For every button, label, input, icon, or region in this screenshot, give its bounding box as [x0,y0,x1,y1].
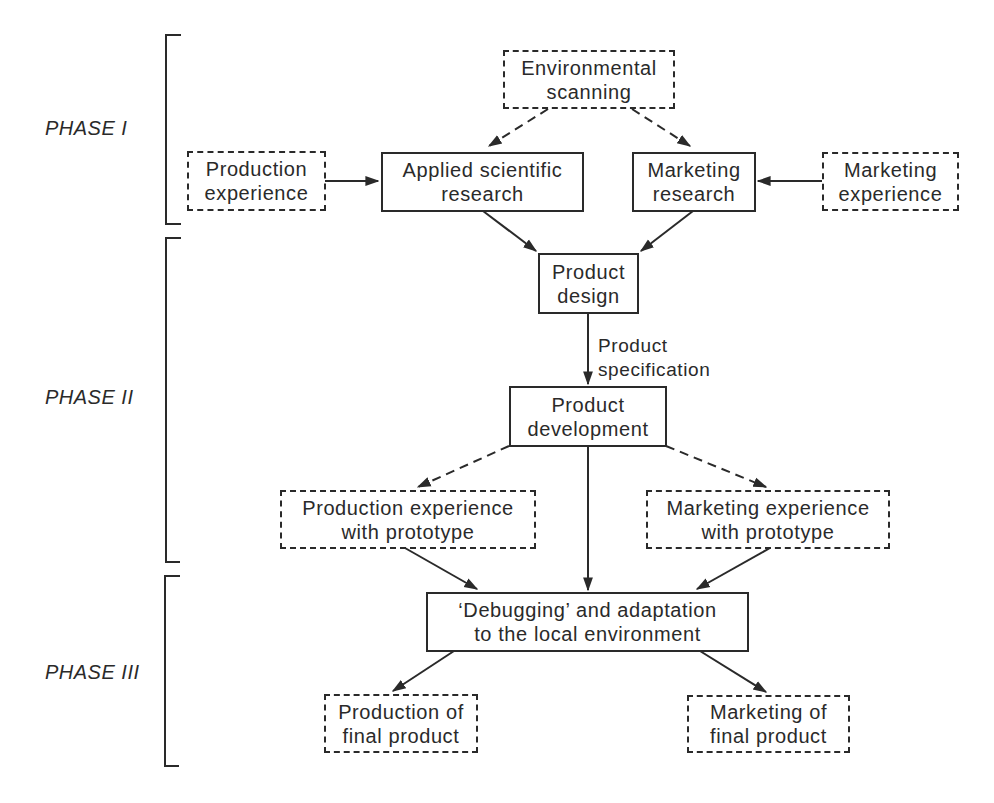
edge-label-product-specification: Product specification [598,334,710,382]
node-text: with prototype [342,520,475,544]
node-applied-scientific-research: Applied scientific research [381,152,584,212]
node-text: Marketing [647,158,740,182]
node-text: design [557,284,620,308]
phase-2-bracket [166,238,181,562]
diagram-connectors [0,0,994,803]
node-production-experience-with-prototype: Production experience with prototype [280,490,536,549]
edge-development-to-prod-prototype [418,446,509,487]
phase-1-label: PHASE I [45,117,127,140]
edge-env-to-applied [489,109,548,146]
edge-development-to-mkt-prototype [666,446,766,487]
node-text: Production of [338,700,464,724]
node-text: Applied scientific [403,158,563,182]
node-text: development [527,417,648,441]
node-text: Production [206,157,308,181]
node-text: research [441,182,524,206]
node-production-experience: Production experience [187,151,326,211]
edge-debugging-to-mkt-final [700,651,766,692]
node-product-development: Product development [509,386,667,447]
node-text: research [653,182,736,206]
node-production-of-final-product: Production of final product [324,694,478,753]
node-environmental-scanning: Environmental scanning [503,50,675,109]
innovation-process-diagram: PHASE I PHASE II PHASE III Environmental… [0,0,994,803]
node-text: ‘Debugging’ and adaptation [458,598,716,622]
phase-3-label: PHASE III [45,661,140,684]
edge-applied-to-design [483,211,536,251]
node-product-design: Product design [538,253,639,314]
node-text: experience [839,182,943,206]
node-marketing-experience: Marketing experience [822,152,959,211]
node-marketing-experience-with-prototype: Marketing experience with prototype [646,490,890,549]
node-text: Production experience [302,496,514,520]
edge-debugging-to-prod-final [393,651,454,691]
edge-env-to-marketing-research [632,109,690,146]
phase-3-bracket [165,576,180,766]
node-text: scanning [547,80,632,104]
edge-prod-prototype-to-debugging [405,548,477,589]
node-text: final product [343,724,460,748]
edge-label-text: specification [598,358,710,382]
node-text: final product [710,724,827,748]
node-text: to the local environment [474,622,701,646]
phase-2-label: PHASE II [45,386,133,409]
node-text: with prototype [702,520,835,544]
node-debugging-and-adaptation: ‘Debugging’ and adaptation to the local … [426,592,749,652]
node-marketing-of-final-product: Marketing of final product [687,695,850,753]
node-text: Environmental [521,56,657,80]
node-text: Marketing of [710,700,827,724]
edge-mkt-prototype-to-debugging [697,548,770,589]
phase-1-bracket [166,35,181,224]
phase-brackets [165,35,181,766]
node-marketing-research: Marketing research [632,152,756,212]
edge-marketing-research-to-design [641,211,693,251]
node-text: Marketing experience [666,496,869,520]
node-text: Product [551,393,624,417]
node-text: Marketing [844,158,937,182]
node-text: experience [205,181,309,205]
edge-label-text: Product [598,334,710,358]
node-text: Product [552,260,625,284]
